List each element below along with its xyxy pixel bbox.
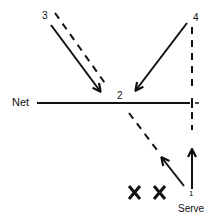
position-3-label: 3 (42, 11, 48, 21)
serve-label: Serve (178, 204, 204, 214)
opponent-x-1 (129, 186, 140, 199)
arrow-4-to-2 (136, 23, 187, 90)
position-1-label: 1 (189, 190, 193, 198)
opponent-x-2 (154, 186, 165, 199)
play-diagram: Net 3 4 2 1 Serve (0, 0, 221, 223)
diagram-drawing (0, 0, 221, 223)
dashed-2-to-1 (129, 113, 160, 154)
arrow-1-up-left (162, 158, 184, 186)
position-4-label: 4 (193, 13, 199, 23)
position-2-label: 2 (117, 91, 123, 101)
net-label: Net (12, 97, 29, 108)
arrow-3-to-2 (51, 25, 100, 91)
dashed-3-to-2 (55, 13, 107, 86)
